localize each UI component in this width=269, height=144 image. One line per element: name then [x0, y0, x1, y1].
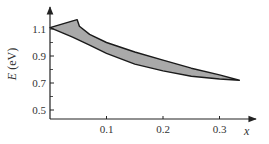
- y-tick-label: 0.9: [32, 50, 46, 62]
- y-axis-label: E (eV): [5, 48, 19, 81]
- plot-region: [50, 20, 239, 81]
- y-tick-label: 0.7: [32, 77, 46, 89]
- energy-gap-chart: 0.50.70.91.1 0.10.20.3 x E (eV): [0, 0, 269, 144]
- x-tick-label: 0.3: [213, 123, 227, 135]
- band-gap-region: [50, 20, 239, 81]
- y-tick-label: 1.1: [32, 23, 46, 35]
- x-tick-label: 0.2: [156, 123, 170, 135]
- y-tick-label: 0.5: [32, 104, 46, 116]
- x-tick-label: 0.1: [100, 123, 114, 135]
- y-ticks: 0.50.70.91.1: [32, 23, 54, 116]
- x-axis-label: x: [243, 124, 250, 138]
